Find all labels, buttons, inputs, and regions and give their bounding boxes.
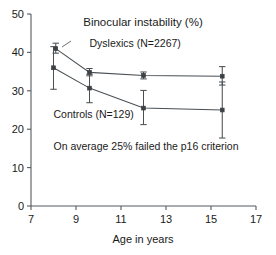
data-point-marker: [88, 86, 92, 90]
data-point-marker: [88, 70, 92, 74]
x-axis-title-group: Age in years: [112, 233, 174, 245]
data-point-marker: [220, 108, 224, 112]
y-tick-label: 10: [12, 162, 24, 174]
y-tick-label: 40: [12, 46, 24, 58]
series-label: Dyslexics (N=2267): [90, 37, 181, 49]
chart-title: Binocular instability (%): [83, 16, 203, 28]
x-tick-label: 9: [73, 213, 79, 225]
data-series-layer: [50, 43, 225, 138]
x-tick-label: 11: [115, 213, 126, 225]
binocular-instability-line-chart: Binocular instability (%) 01020304050 79…: [0, 0, 276, 255]
series-label: Controls (N=129): [54, 108, 134, 120]
y-tick-label: 30: [12, 85, 24, 97]
x-axis-ticks: 7911131517: [28, 206, 262, 225]
data-point-marker: [220, 74, 224, 78]
data-point-marker: [52, 66, 56, 70]
y-tick-label: 50: [12, 8, 24, 20]
chart-figure: Binocular instability (%) 01020304050 79…: [0, 0, 276, 255]
data-point-marker: [142, 74, 146, 78]
x-tick-label: 15: [205, 213, 217, 225]
x-tick-label: 7: [28, 213, 34, 225]
series-line: [54, 68, 223, 110]
data-point-marker: [142, 106, 146, 110]
annotation-layer: Dyslexics (N=2267)Controls (N=129)On ave…: [54, 37, 239, 153]
x-axis-title: Age in years: [112, 233, 174, 245]
x-tick-label: 17: [250, 213, 262, 225]
y-tick-label: 0: [18, 200, 24, 212]
y-tick-label: 20: [12, 123, 24, 135]
data-point-marker: [54, 47, 58, 51]
y-axis-ticks: 01020304050: [12, 8, 31, 212]
series-1: [53, 43, 226, 85]
dyslexics-leader-line: [62, 41, 71, 47]
chart-annotation: On average 25% failed the p16 criterion: [54, 140, 239, 152]
x-tick-label: 13: [160, 213, 172, 225]
plot-title-group: Binocular instability (%): [83, 16, 203, 28]
series-line: [56, 49, 223, 77]
series-2: [50, 47, 225, 138]
